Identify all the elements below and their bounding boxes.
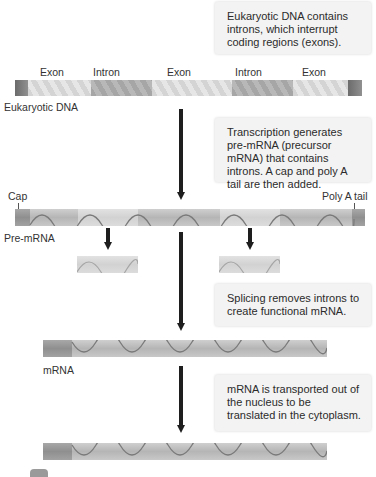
cytoplasm-mrna-strand [43, 443, 327, 460]
excised-intron-2 [219, 256, 280, 273]
arrow-splicing-head [177, 323, 185, 331]
dna-label-exon-2: Exon [167, 66, 191, 78]
dna-exon-3 [293, 80, 348, 96]
note-transcription-text: Transcription generates pre-mRNA (precur… [227, 126, 347, 190]
arrow-splicing [179, 232, 183, 324]
arrow-excise-intron-1 [106, 228, 110, 243]
note-dna-introns: Eukaryotic DNA contains introns, which i… [215, 2, 371, 54]
dna-label-exon-3: Exon [302, 66, 326, 78]
dna-exon-2 [152, 80, 232, 96]
dna-intron-2 [232, 80, 293, 96]
mrna-label: mRNA [43, 364, 74, 376]
arrow-transcription-head [177, 192, 185, 200]
arrow-transport-head [177, 425, 185, 433]
poly-a-tail-label: Poly A tail [322, 190, 368, 202]
dna-end-left [15, 80, 28, 96]
pre-mrna-label: Pre-mRNA [4, 232, 55, 244]
dna-label-intron-1: Intron [93, 66, 120, 78]
note-transport: mRNA is transported out of the nucleus t… [215, 375, 371, 431]
arrow-transcription [179, 109, 183, 193]
dna-label-intron-2: Intron [235, 66, 262, 78]
arrow-excise-intron-1-head [104, 242, 112, 250]
dna-intron-1 [91, 80, 152, 96]
arrow-excise-intron-2-head [246, 242, 254, 250]
note-splicing: Splicing removes introns to create funct… [215, 284, 371, 326]
dna-label-exon-1: Exon [40, 66, 64, 78]
pre-mrna-wave [15, 209, 365, 226]
dna-strand [15, 80, 362, 96]
dna-exon-1 [28, 80, 91, 96]
arrow-excise-intron-2 [248, 228, 252, 243]
mrna-strand [43, 340, 327, 357]
cap-label: Cap [8, 190, 27, 202]
note-splicing-text: Splicing removes introns to create funct… [227, 292, 359, 317]
excised-intron-1 [77, 256, 138, 273]
note-transcription: Transcription generates pre-mRNA (precur… [215, 118, 371, 182]
dna-end-right [348, 80, 362, 96]
dna-label: Eukaryotic DNA [4, 101, 78, 113]
arrow-transport [179, 366, 183, 426]
pre-mrna-strand [15, 209, 365, 226]
note-transport-text: mRNA is transported out of the nucleus t… [227, 383, 361, 421]
partial-figure-icon [30, 469, 48, 477]
note-dna-text: Eukaryotic DNA contains introns, which i… [227, 10, 348, 48]
